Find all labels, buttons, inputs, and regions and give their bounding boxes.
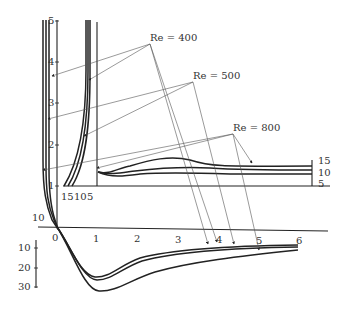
bottom-htick-3: 3 <box>175 234 181 245</box>
bottom-vtick-30: 30 <box>18 281 31 292</box>
right-scale: 15 10 5 <box>312 155 331 189</box>
label-re-500: Re = 500 <box>193 70 240 81</box>
label-re-800: Re = 800 <box>233 122 280 133</box>
right-tick-15: 15 <box>318 155 331 166</box>
bottom-htick-4: 4 <box>216 234 222 245</box>
right-tick-10: 10 <box>318 167 331 178</box>
tick-label-10: 10 <box>32 212 45 223</box>
inner-profile-plot: 15 10 5 <box>61 20 330 202</box>
right-tick-5: 5 <box>318 178 324 189</box>
bottom-htick-0: 0 <box>52 232 58 243</box>
inner-tick-5: 5 <box>87 191 93 202</box>
annotations: Re = 400 Re = 500 Re = 800 <box>43 32 280 250</box>
bottom-plot: 10 20 30 0 1 2 3 4 5 6 <box>18 227 328 292</box>
left-profile-curves <box>43 20 58 229</box>
bottom-htick-2: 2 <box>134 233 140 244</box>
inner-tick-10: 10 <box>74 191 87 202</box>
bottom-vtick-20: 20 <box>18 262 31 273</box>
bottom-vtick-10: 10 <box>18 242 31 253</box>
inner-tick-15: 15 <box>61 191 74 202</box>
label-re-400: Re = 400 <box>150 32 197 43</box>
bottom-htick-1: 1 <box>93 233 99 244</box>
flow-profile-diagram: 1 2 3 4 5 10 15 10 5 15 10 5 <box>0 0 346 310</box>
